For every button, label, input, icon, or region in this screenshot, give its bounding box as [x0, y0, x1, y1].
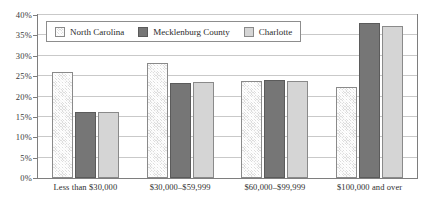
- legend-item-label: Charlotte: [259, 27, 293, 37]
- y-axis-tick-label: 0%: [20, 173, 32, 183]
- y-axis-tick-label: 30%: [16, 51, 32, 61]
- bar: [287, 81, 308, 178]
- bar-group: [322, 15, 417, 178]
- y-axis-tick-label: 35%: [16, 30, 32, 40]
- y-axis: 0%5%10%15%20%25%30%35%40%: [0, 0, 37, 205]
- bar: [75, 112, 96, 178]
- y-axis-tick-label: 10%: [16, 132, 32, 142]
- bar: [170, 83, 191, 178]
- bar: [264, 80, 285, 178]
- y-axis-tick-label: 5%: [20, 153, 32, 163]
- legend-item: North Carolina: [55, 27, 124, 37]
- x-axis-category-label: $60,000–$99,999: [244, 182, 305, 192]
- y-axis-tick-label: 15%: [16, 112, 32, 122]
- x-axis-category-label: $30,000–$59,999: [150, 182, 211, 192]
- y-axis-tick-mark: [33, 35, 37, 36]
- y-axis-tick-mark: [33, 15, 37, 16]
- legend-swatch-icon: [55, 27, 65, 37]
- bar-chart: 0%5%10%15%20%25%30%35%40% Less than $30,…: [0, 0, 428, 205]
- y-axis-tick-label: 25%: [16, 71, 32, 81]
- x-axis-category-label: Less than $30,000: [53, 182, 117, 192]
- legend-swatch-icon: [138, 27, 148, 37]
- bar: [382, 26, 403, 178]
- y-axis-tick-mark: [33, 178, 37, 179]
- y-axis-tick-mark: [33, 76, 37, 77]
- y-axis-tick-mark: [33, 56, 37, 57]
- bar: [336, 87, 357, 178]
- y-axis-tick-mark: [33, 158, 37, 159]
- bar: [98, 112, 119, 178]
- legend: North CarolinaMecklenburg CountyCharlott…: [46, 21, 301, 42]
- legend-item: Mecklenburg County: [138, 27, 230, 37]
- y-axis-tick-label: 20%: [16, 92, 32, 102]
- y-axis-tick-mark: [33, 137, 37, 138]
- y-axis-tick-mark: [33, 97, 37, 98]
- legend-swatch-icon: [244, 27, 254, 37]
- x-axis-category-label: $100,000 and over: [337, 182, 402, 192]
- y-axis-tick-mark: [33, 117, 37, 118]
- legend-item-label: Mecklenburg County: [153, 27, 230, 37]
- bar: [52, 72, 73, 178]
- bar: [241, 81, 262, 178]
- bar: [147, 63, 168, 178]
- bar: [359, 23, 380, 178]
- legend-item: Charlotte: [244, 27, 293, 37]
- x-axis: Less than $30,000$30,000–$59,999$60,000–…: [38, 182, 417, 204]
- y-axis-tick-label: 40%: [16, 10, 32, 20]
- bar: [193, 82, 214, 178]
- legend-item-label: North Carolina: [70, 27, 124, 37]
